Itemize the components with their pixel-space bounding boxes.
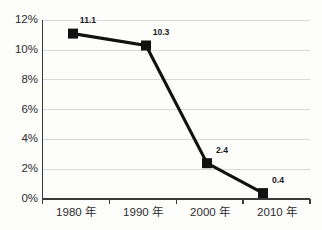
chart-canvas: 12% 10% 8% 6% 4% 2% 0% 1980 年 1990 年 200… bbox=[0, 0, 322, 230]
series-markers bbox=[68, 29, 268, 199]
y-axis-labels: 12% 10% 8% 6% 4% 2% 0% bbox=[15, 13, 38, 204]
data-label-1990: 10.3 bbox=[153, 27, 170, 37]
marker-1990 bbox=[141, 41, 151, 51]
x-tick-label-1990: 1990 年 bbox=[123, 205, 163, 218]
x-tick-label-1980: 1980 年 bbox=[56, 205, 96, 218]
data-label-2010: 0.4 bbox=[272, 175, 284, 185]
x-axis-labels: 1980 年 1990 年 2000 年 2010 年 bbox=[56, 205, 297, 218]
y-tick-label-0: 0% bbox=[21, 192, 38, 204]
y-tick-label-6: 6% bbox=[21, 103, 38, 115]
data-label-1980: 11.1 bbox=[80, 15, 96, 25]
y-tick-label-12: 12% bbox=[15, 13, 38, 25]
x-tick-label-2000: 2000 年 bbox=[190, 205, 230, 218]
y-tick-label-4: 4% bbox=[21, 132, 38, 144]
gridlines bbox=[42, 20, 310, 169]
y-tick-label-8: 8% bbox=[21, 73, 38, 85]
data-label-2000: 2.4 bbox=[216, 145, 228, 155]
marker-2000 bbox=[202, 158, 212, 168]
x-tick-label-2010: 2010 年 bbox=[257, 205, 297, 218]
line-chart: 12% 10% 8% 6% 4% 2% 0% 1980 年 1990 年 200… bbox=[0, 0, 322, 230]
y-tick-label-10: 10% bbox=[15, 43, 38, 55]
y-tick-label-2: 2% bbox=[21, 162, 38, 174]
marker-2010 bbox=[258, 188, 268, 198]
marker-1980 bbox=[68, 29, 78, 39]
